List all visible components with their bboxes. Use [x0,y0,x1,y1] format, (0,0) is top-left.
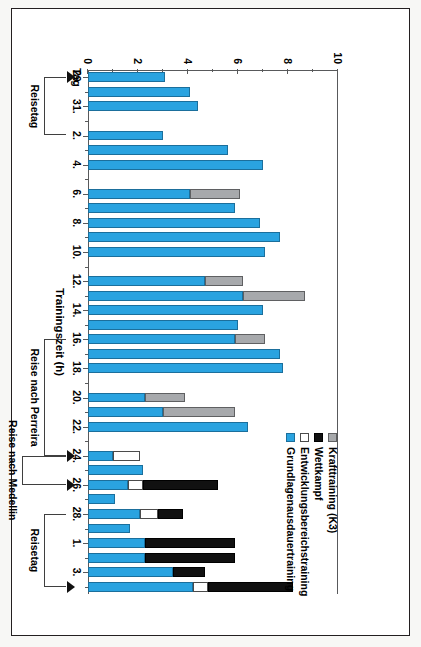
bar-segment-gla[interactable] [88,494,116,504]
category-tick [85,92,88,93]
legend-item-label: Krafttraining (K3) [327,447,339,533]
bar-slot [88,347,338,362]
category-tick [83,572,88,573]
category-tick [85,529,88,530]
bar-segment-ebt[interactable] [140,509,158,519]
stacked-bar[interactable] [88,422,248,432]
stacked-bar[interactable] [88,87,191,97]
stacked-bar[interactable] [88,247,266,257]
bar-segment-kt[interactable] [243,291,306,301]
stacked-bar[interactable] [88,393,186,403]
stacked-bar[interactable] [88,72,166,82]
category-tick-label: 14. [71,297,83,323]
stacked-bar[interactable] [88,320,238,330]
legend-swatch-gla [287,433,296,442]
bar-segment-gla[interactable] [88,393,146,403]
bar-segment-gla[interactable] [88,451,113,461]
legend-item[interactable]: Krafttraining (K3) [327,433,339,596]
stacked-bar[interactable] [88,203,236,213]
stacked-bar[interactable] [88,101,198,111]
stacked-bar[interactable] [88,509,183,519]
bar-segment-ebt[interactable] [193,582,208,592]
stacked-bar[interactable] [88,145,228,155]
stacked-bar[interactable] [88,363,283,373]
stacked-bar[interactable] [88,160,263,170]
category-tick [85,383,88,384]
category-tick-label: 1. [71,530,83,556]
stacked-bar[interactable] [88,131,163,141]
legend-item[interactable]: Entwicklungsbereichstraining [299,433,311,596]
stacked-bar[interactable] [88,480,218,490]
stacked-bar[interactable] [88,567,206,577]
value-tick-label: 4 [182,44,194,64]
legend-item[interactable]: Wettkampf [313,433,325,596]
category-tick-label: 31. [71,93,83,119]
bar-segment-gla[interactable] [88,407,163,417]
bar-segment-gla[interactable] [88,203,236,213]
stacked-bar[interactable] [88,291,306,301]
annotation-arrow-icon [67,71,75,83]
bar-segment-wk[interactable] [143,480,218,490]
bar-segment-wk[interactable] [158,509,183,519]
bar-segment-kt[interactable] [163,407,236,417]
bar-segment-gla[interactable] [88,524,131,534]
bar-segment-kt[interactable] [145,393,185,403]
bar-segment-kt[interactable] [190,189,240,199]
bar-segment-kt[interactable] [205,276,243,286]
bar-segment-gla[interactable] [88,553,146,563]
bar-segment-gla[interactable] [88,538,146,548]
bar-segment-wk[interactable] [173,567,206,577]
category-tick [85,325,88,326]
bar-segment-gla[interactable] [88,131,163,141]
bar-segment-gla[interactable] [88,87,191,97]
annotation-label: Reisetag [29,84,41,128]
stacked-bar[interactable] [88,276,243,286]
stacked-bar[interactable] [88,494,116,504]
bar-segment-kt[interactable] [235,334,265,344]
category-tick-label: 4. [71,152,83,178]
annotation-label: Reisetag [29,528,41,572]
legend-item[interactable]: Grundlagenausdauertraining [285,433,297,596]
bar-segment-gla[interactable] [88,232,281,242]
bar-segment-ebt[interactable] [113,451,141,461]
category-tick [85,237,88,238]
stacked-bar[interactable] [88,538,236,548]
bar-slot [88,216,338,231]
bar-segment-gla[interactable] [88,276,206,286]
stacked-bar[interactable] [88,451,141,461]
bar-segment-gla[interactable] [88,465,143,475]
bar-segment-ebt[interactable] [128,480,143,490]
bar-segment-gla[interactable] [88,247,266,257]
category-tick [83,543,88,544]
bar-segment-gla[interactable] [88,145,228,155]
bar-slot [88,143,338,158]
bar-segment-gla[interactable] [88,422,248,432]
stacked-bar[interactable] [88,465,143,475]
bar-segment-gla[interactable] [88,291,243,301]
bar-segment-gla[interactable] [88,363,283,373]
stacked-bar[interactable] [88,407,236,417]
bar-segment-gla[interactable] [88,582,193,592]
stacked-bar[interactable] [88,189,241,199]
bar-segment-gla[interactable] [88,320,238,330]
bar-segment-gla[interactable] [88,567,173,577]
bar-segment-gla[interactable] [88,218,261,228]
bar-segment-gla[interactable] [88,189,191,199]
bar-segment-gla[interactable] [88,101,198,111]
bar-segment-gla[interactable] [88,480,128,490]
bar-segment-gla[interactable] [88,72,166,82]
stacked-bar[interactable] [88,232,281,242]
bar-segment-gla[interactable] [88,509,141,519]
stacked-bar[interactable] [88,334,266,344]
stacked-bar[interactable] [88,305,263,315]
bar-slot [88,259,338,274]
stacked-bar[interactable] [88,218,261,228]
stacked-bar[interactable] [88,524,131,534]
bar-segment-gla[interactable] [88,334,236,344]
category-tick [85,412,88,413]
bar-segment-gla[interactable] [88,349,281,359]
stacked-bar[interactable] [88,553,236,563]
stacked-bar[interactable] [88,349,281,359]
bar-segment-gla[interactable] [88,305,263,315]
bar-segment-gla[interactable] [88,160,263,170]
